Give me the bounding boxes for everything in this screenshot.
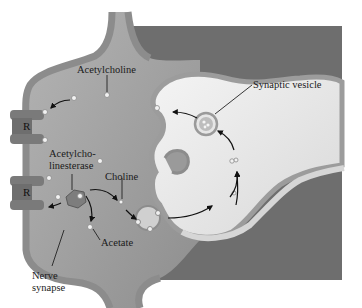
label-nerve-synapse-1: Nerve — [32, 270, 58, 281]
label-acetylcholine: Acetylcholine — [77, 64, 136, 75]
synapse-diagram: Acetylcholine Synaptic vesicle Acetylcho… — [0, 0, 362, 308]
label-receptor-top: R — [23, 121, 30, 132]
label-acetate: Acetate — [101, 237, 133, 248]
label-acetylcholinesterase-1: Acetylcho- — [49, 148, 96, 159]
label-receptor-bottom: R — [23, 187, 30, 198]
choline-transporter — [136, 206, 160, 230]
vesicle-core — [199, 117, 213, 131]
label-nerve-synapse-2: synapse — [32, 282, 65, 293]
label-choline: Choline — [105, 171, 138, 182]
label-synaptic-vesicle: Synaptic vesicle — [253, 79, 322, 90]
label-acetylcholinesterase-2: linesterase — [49, 160, 93, 171]
